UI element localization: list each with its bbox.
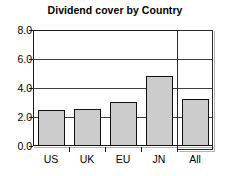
x-tick-label-all: All [175,154,215,165]
bar-eu [110,102,137,146]
bar-jn [146,76,173,146]
chart-title: Dividend cover by Country [0,4,230,16]
y-tick-label: 6.0 [17,54,32,64]
bar-all [182,99,209,146]
gridline-y-6.0 [33,59,213,60]
x-tick-label-uk: UK [67,154,107,165]
y-tick-label: 2.0 [17,112,32,122]
gridline-y-4.0 [33,88,213,89]
chart-container: Dividend cover by Country 0.02.04.06.08.… [0,0,230,176]
bar-uk [74,109,101,146]
x-tick-label-eu: EU [103,154,143,165]
x-tick-mark-1 [69,147,70,152]
x-tick-label-us: US [31,154,71,165]
y-tick-label: 0.0 [17,141,32,151]
x-tick-mark-2 [105,147,106,152]
y-tick-label: 4.0 [17,83,32,93]
y-tick-label: 8.0 [17,25,32,35]
bar-us [38,110,65,146]
x-tick-mark-4 [177,147,178,152]
x-tick-mark-3 [141,147,142,152]
x-tick-label-jn: JN [139,154,179,165]
